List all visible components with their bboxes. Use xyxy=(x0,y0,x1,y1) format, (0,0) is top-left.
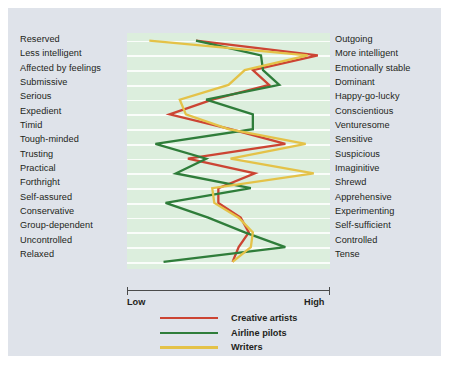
right-trait-label: Dominant xyxy=(335,75,445,89)
legend-item[interactable]: Airline pilots xyxy=(160,326,390,341)
legend-item[interactable]: Writers xyxy=(160,340,390,355)
axis-bar xyxy=(127,290,330,291)
profile-lines xyxy=(127,33,330,269)
right-trait-label: Suspicious xyxy=(335,147,445,161)
right-trait-label: Conscientious xyxy=(335,104,445,118)
right-trait-label: Tense xyxy=(335,247,445,261)
left-trait-label: Uncontrolled xyxy=(20,233,140,247)
legend-color-swatch xyxy=(160,317,218,319)
left-trait-label: Trusting xyxy=(20,147,140,161)
axis-cap-left xyxy=(127,287,128,295)
left-trait-label: Reserved xyxy=(20,32,140,46)
right-trait-label: Self-sufficient xyxy=(335,218,445,232)
right-trait-label: Venturesome xyxy=(335,118,445,132)
right-trait-labels: OutgoingMore intelligentEmotionally stab… xyxy=(335,32,445,262)
x-axis xyxy=(127,287,330,295)
left-trait-label: Tough-minded xyxy=(20,132,140,146)
left-trait-label: Serious xyxy=(20,89,140,103)
right-trait-label: Emotionally stable xyxy=(335,61,445,75)
left-trait-label: Conservative xyxy=(20,204,140,218)
axis-label-low: Low xyxy=(127,297,145,307)
right-trait-label: Shrewd xyxy=(335,175,445,189)
legend-color-swatch xyxy=(160,332,218,334)
legend-color-swatch xyxy=(160,346,218,348)
right-trait-label: Imaginitive xyxy=(335,161,445,175)
right-trait-label: Apprehensive xyxy=(335,190,445,204)
chart-legend: Creative artistsAirline pilotsWriters xyxy=(160,311,390,355)
legend-label: Writers xyxy=(231,342,263,352)
legend-item[interactable]: Creative artists xyxy=(160,311,390,326)
left-trait-label: Self-assured xyxy=(20,190,140,204)
axis-label-high: High xyxy=(304,297,324,307)
figure-panel: ReservedLess intelligentAffected by feel… xyxy=(8,8,441,356)
right-trait-label: Sensitive xyxy=(335,132,445,146)
left-trait-label: Group-dependent xyxy=(20,218,140,232)
series-line-creative-artists xyxy=(170,41,318,262)
left-trait-label: Expedient xyxy=(20,104,140,118)
legend-label: Creative artists xyxy=(231,313,297,323)
right-trait-label: Happy-go-lucky xyxy=(335,89,445,103)
plot-area xyxy=(127,33,330,269)
left-trait-label: Relaxed xyxy=(20,247,140,261)
right-trait-label: Outgoing xyxy=(335,32,445,46)
left-trait-label: Affected by feelings xyxy=(20,61,140,75)
left-trait-label: Forthright xyxy=(20,175,140,189)
right-trait-label: More intelligent xyxy=(335,46,445,60)
right-trait-label: Controlled xyxy=(335,233,445,247)
axis-cap-right xyxy=(329,287,330,295)
left-trait-label: Practical xyxy=(20,161,140,175)
left-trait-label: Timid xyxy=(20,118,140,132)
legend-label: Airline pilots xyxy=(231,328,287,338)
right-trait-label: Experimenting xyxy=(335,204,445,218)
left-trait-label: Less intelligent xyxy=(20,46,140,60)
left-trait-labels: ReservedLess intelligentAffected by feel… xyxy=(20,32,140,262)
left-trait-label: Submissive xyxy=(20,75,140,89)
